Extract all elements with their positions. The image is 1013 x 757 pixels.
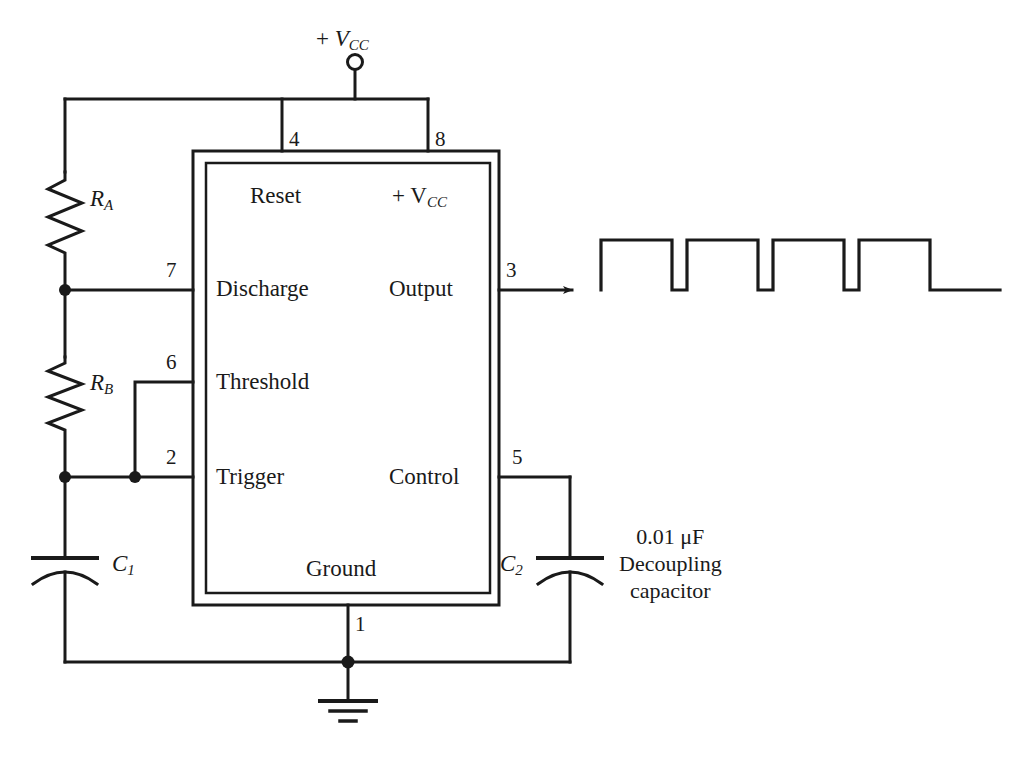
- ic-label-output: Output: [389, 276, 453, 302]
- ra-subscript: A: [104, 197, 113, 213]
- supply-vcc-subscript: CC: [349, 37, 369, 53]
- circuit-schematic-svg: [0, 0, 1013, 757]
- decoupling-capacitor-annotation: 0.01 μF Decoupling capacitor: [619, 524, 722, 604]
- c2-symbol: C: [500, 551, 515, 576]
- ic-vcc-text: + V: [392, 183, 427, 208]
- junction-dot-trigger-jog: [129, 471, 141, 483]
- resistor-ra-label: RA: [90, 186, 113, 214]
- resistor-ra: [48, 172, 82, 290]
- supply-vcc-label: + VCC: [316, 26, 369, 54]
- ic-label-vcc: + VCC: [392, 183, 447, 211]
- ra-symbol: R: [90, 186, 104, 211]
- pin-number-6: 6: [166, 350, 177, 374]
- pin-number-1: 1: [355, 612, 366, 636]
- ic-label-threshold: Threshold: [216, 369, 309, 395]
- pin-number-7: 7: [166, 258, 177, 282]
- c1-symbol: C: [112, 551, 127, 576]
- ic-label-ground: Ground: [306, 556, 376, 582]
- ic-vcc-subscript: CC: [427, 194, 447, 210]
- ic-label-trigger: Trigger: [216, 464, 284, 490]
- pin-number-4: 4: [289, 127, 300, 151]
- decoupling-line3: capacitor: [619, 578, 722, 605]
- capacitor-c1-label: C1: [112, 551, 135, 579]
- c2-subscript: 2: [515, 562, 523, 578]
- pin-number-3: 3: [506, 258, 517, 282]
- supply-v-symbol: V: [335, 26, 349, 51]
- pin-number-5: 5: [512, 445, 523, 469]
- c1-subscript: 1: [127, 562, 135, 578]
- vcc-terminal-circle: [348, 55, 363, 70]
- rb-subscript: B: [104, 381, 113, 397]
- schematic-canvas: + VCC 4 8 7 3 6 2 5 1 Reset + VCC Discha…: [0, 0, 1013, 757]
- ic-label-control: Control: [389, 464, 459, 490]
- output-square-waveform: [601, 240, 1000, 290]
- decoupling-value: 0.01 μF: [619, 524, 722, 551]
- pin-number-8: 8: [435, 127, 446, 151]
- resistor-rb: [48, 357, 82, 477]
- threshold-jog-wire: [135, 382, 193, 477]
- capacitor-c2-label: C2: [500, 551, 523, 579]
- pin-number-2: 2: [166, 445, 177, 469]
- ic-label-discharge: Discharge: [216, 276, 309, 302]
- ic-label-reset: Reset: [250, 183, 301, 209]
- rb-symbol: R: [90, 370, 104, 395]
- decoupling-line2: Decoupling: [619, 551, 722, 578]
- supply-plus-sign: +: [316, 26, 329, 51]
- resistor-rb-label: RB: [90, 370, 113, 398]
